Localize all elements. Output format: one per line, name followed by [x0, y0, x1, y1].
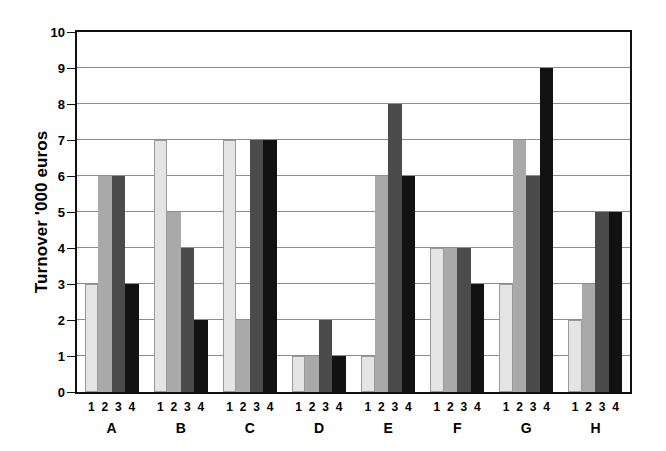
bar — [223, 140, 237, 392]
bar — [167, 212, 181, 392]
y-tick-label: 6 — [39, 169, 65, 184]
y-tick-mark — [67, 32, 75, 33]
y-tick-mark — [67, 392, 75, 393]
bar — [154, 140, 168, 392]
x-tick-label: 4 — [124, 400, 140, 414]
bar — [181, 248, 195, 392]
x-tick-label: 4 — [469, 400, 485, 414]
bar — [305, 356, 319, 392]
y-tick-mark — [67, 212, 75, 213]
bar — [568, 320, 582, 392]
bar — [85, 284, 99, 392]
y-tick-label: 0 — [39, 385, 65, 400]
bar — [236, 320, 250, 392]
y-tick-mark — [67, 176, 75, 177]
bar — [540, 68, 554, 392]
bar-chart: Turnover '000 euros 012345678910 1234A12… — [0, 0, 666, 451]
x-group-label: G — [506, 420, 546, 436]
y-tick-mark — [67, 248, 75, 249]
bar — [292, 356, 306, 392]
y-tick-label: 2 — [39, 313, 65, 328]
bar — [430, 248, 444, 392]
x-group-label: B — [161, 420, 201, 436]
y-tick-mark — [67, 104, 75, 105]
bar — [595, 212, 609, 392]
bar — [471, 284, 485, 392]
bar — [263, 140, 277, 392]
x-axis-labels: 1234A1234B1234C1234D1234E1234F1234G1234H — [75, 394, 632, 451]
bar — [609, 212, 623, 392]
x-tick-label: 4 — [400, 400, 416, 414]
y-tick-label: 5 — [39, 205, 65, 220]
x-tick-label: 4 — [193, 400, 209, 414]
bar — [361, 356, 375, 392]
y-tick-label: 8 — [39, 97, 65, 112]
y-tick-label: 1 — [39, 349, 65, 364]
bar — [444, 248, 458, 392]
y-tick-mark — [67, 140, 75, 141]
x-group-label: A — [92, 420, 132, 436]
y-tick-label: 7 — [39, 133, 65, 148]
x-tick-label: 4 — [262, 400, 278, 414]
x-tick-label: 4 — [539, 400, 555, 414]
bar — [250, 140, 264, 392]
bar — [125, 284, 139, 392]
x-group-label: C — [230, 420, 270, 436]
plot-area — [75, 30, 632, 394]
bar — [388, 104, 402, 392]
bar — [319, 320, 333, 392]
bar — [402, 176, 416, 392]
bar — [194, 320, 208, 392]
y-tick-mark — [67, 68, 75, 69]
x-tick-label: 4 — [608, 400, 624, 414]
x-group-label: H — [575, 420, 615, 436]
bar — [457, 248, 471, 392]
bar — [332, 356, 346, 392]
y-tick-label: 10 — [39, 25, 65, 40]
bar — [513, 140, 527, 392]
x-group-label: F — [437, 420, 477, 436]
y-tick-mark — [67, 356, 75, 357]
bar — [526, 176, 540, 392]
bar — [112, 176, 126, 392]
bar — [98, 176, 112, 392]
y-tick-label: 4 — [39, 241, 65, 256]
bar — [499, 284, 513, 392]
x-group-label: D — [299, 420, 339, 436]
x-tick-label: 4 — [331, 400, 347, 414]
bar — [582, 284, 596, 392]
y-tick-mark — [67, 320, 75, 321]
y-tick-label: 9 — [39, 61, 65, 76]
bars-layer — [77, 32, 630, 392]
bar — [375, 176, 389, 392]
y-tick-label: 3 — [39, 277, 65, 292]
x-group-label: E — [368, 420, 408, 436]
y-tick-mark — [67, 284, 75, 285]
